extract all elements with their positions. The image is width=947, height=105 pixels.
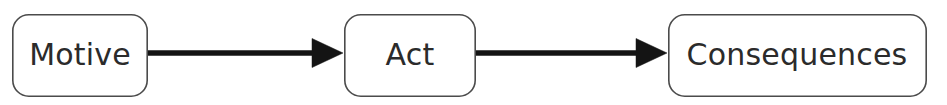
node-motive-label: Motive xyxy=(29,37,131,72)
node-consequences-label: Consequences xyxy=(687,37,908,72)
node-act-label: Act xyxy=(386,37,435,72)
connector-act-to-consequences xyxy=(476,39,667,68)
flow-diagram: Motive Act Consequences xyxy=(0,0,947,105)
diagram-canvas: Motive Act Consequences xyxy=(0,0,947,105)
connector-motive-to-act xyxy=(148,39,343,68)
node-motive[interactable]: Motive xyxy=(13,15,147,96)
node-act[interactable]: Act xyxy=(345,15,475,96)
node-consequences[interactable]: Consequences xyxy=(669,15,926,96)
arrowhead-icon xyxy=(636,39,667,68)
arrowhead-icon xyxy=(312,39,343,68)
